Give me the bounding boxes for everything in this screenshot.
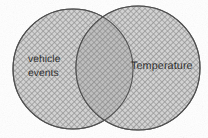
venn-diagram: vehicle events Temperature <box>0 0 208 138</box>
venn-diagram-canvas <box>0 0 208 138</box>
